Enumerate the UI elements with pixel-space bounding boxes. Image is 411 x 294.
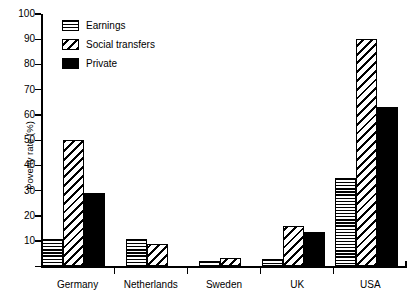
y-tick-10 <box>35 240 41 241</box>
legend-item-private: Private <box>62 54 155 73</box>
bar-usa-social-transfers <box>356 39 377 266</box>
y-tick-50 <box>35 140 41 141</box>
x-category-label-uk: UK <box>261 279 334 290</box>
bar-sweden-social-transfers <box>220 258 241 267</box>
x-tick-2 <box>187 268 188 274</box>
bar-netherlands-earnings <box>126 239 147 267</box>
solid-black-swatch-icon <box>62 58 79 69</box>
bar-netherlands-social-transfers <box>147 244 168 267</box>
y-tick-80 <box>35 64 41 65</box>
chart-legend: Earnings Social transfers Private <box>62 16 155 73</box>
legend-item-social-transfers: Social transfers <box>62 35 155 54</box>
diagonal-hatch-swatch-icon <box>62 39 79 50</box>
legend-label-social-transfers: Social transfers <box>86 40 155 50</box>
y-tick-20 <box>35 215 41 216</box>
legend-item-earnings: Earnings <box>62 16 155 35</box>
y-tick-label-80: 80 <box>1 59 35 69</box>
legend-label-private: Private <box>86 59 117 69</box>
y-tick-60 <box>35 114 41 115</box>
y-tick-label-40: 40 <box>1 160 35 170</box>
horizontal-lines-swatch-icon <box>62 20 79 31</box>
x-category-label-netherlands: Netherlands <box>114 279 187 290</box>
y-tick-label-10: 10 <box>1 236 35 246</box>
y-tick-label-50: 50 <box>1 135 35 145</box>
y-tick-70 <box>35 89 41 90</box>
y-tick-label-90: 90 <box>1 34 35 44</box>
x-tick-3 <box>260 268 261 274</box>
bar-uk-earnings <box>262 259 283 267</box>
y-tick-label-20: 20 <box>1 211 35 221</box>
bar-sweden-earnings <box>199 261 220 266</box>
bar-germany-social-transfers <box>63 140 84 266</box>
y-tick-40 <box>35 165 41 166</box>
x-axis-right-end-tick <box>405 261 407 268</box>
poverty-rate-bar-chart: Poverty rate (%) 102030405060708090100 G… <box>0 0 411 294</box>
x-category-label-usa: USA <box>334 279 407 290</box>
y-tick-label-30: 30 <box>1 186 35 196</box>
y-tick-100 <box>35 13 41 14</box>
y-axis-line <box>41 14 43 268</box>
legend-label-earnings: Earnings <box>86 21 125 31</box>
bar-germany-private <box>84 193 105 266</box>
x-category-label-germany: Germany <box>41 279 114 290</box>
bar-uk-social-transfers <box>283 226 304 266</box>
y-axis-label: Poverty rate (%) <box>24 86 35 226</box>
y-tick-30 <box>35 190 41 191</box>
x-category-label-sweden: Sweden <box>187 279 260 290</box>
bar-usa-private <box>377 107 398 266</box>
y-tick-0 <box>35 266 41 267</box>
y-tick-label-60: 60 <box>1 110 35 120</box>
x-axis-line <box>41 266 407 268</box>
x-tick-4 <box>333 268 334 274</box>
y-tick-label-100: 100 <box>1 9 35 19</box>
bar-uk-private <box>304 232 325 266</box>
bar-usa-earnings <box>335 178 356 266</box>
bar-germany-earnings <box>42 239 63 267</box>
x-tick-1 <box>114 268 115 274</box>
y-tick-90 <box>35 39 41 40</box>
y-tick-label-70: 70 <box>1 85 35 95</box>
